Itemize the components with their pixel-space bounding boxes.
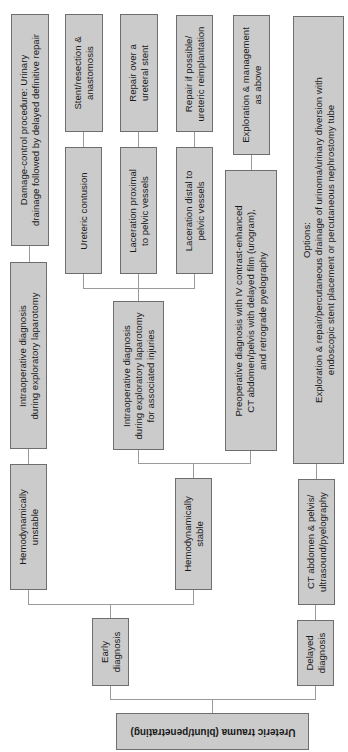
node-label: Preoperative diagnosis with IV contrast-…	[233, 205, 269, 416]
node-early-diagnosis: Early diagnosis	[92, 618, 129, 686]
node-label: Damage-control procedure: Urinary draina…	[18, 34, 42, 226]
connector	[251, 155, 252, 170]
connector	[28, 604, 194, 605]
connector	[193, 463, 194, 478]
connector	[110, 604, 111, 618]
node-laceration-proximal: Laceration proximal to pelvic vessels	[120, 147, 157, 274]
node-intraop-unstable: Intraoperative diagnosis during explorat…	[10, 262, 47, 449]
node-damage-control: Damage-control procedure: Urinary draina…	[11, 14, 49, 246]
connector	[138, 463, 251, 464]
node-label: Laceration proximal to pelvic vessels	[127, 169, 151, 253]
node-label: Repair over a ureteral stent	[127, 44, 151, 102]
connector	[315, 605, 316, 620]
node-label: Stent/resection & anastomosis	[72, 36, 96, 109]
node-repair-stent: Repair over a ureteral stent	[120, 14, 158, 132]
connector	[138, 288, 139, 301]
node-root: Ureteric trauma (blunt/penetrating)	[116, 713, 309, 750]
node-exploration: Exploration & management as above	[233, 15, 270, 155]
node-options: Options: Exploration & repair/percutaneo…	[293, 16, 344, 464]
node-hemodynamically-stable: Hemodynamically stable	[175, 478, 212, 590]
node-preop-diagnosis: Preoperative diagnosis with IV contrast-…	[225, 170, 277, 451]
connector	[110, 699, 316, 700]
node-label: Repair if possible/ ureteric reimplantat…	[183, 26, 207, 121]
node-intraop-stable: Intraoperative diagnosis during explorat…	[113, 301, 164, 450]
node-label: Early diagnosis	[99, 632, 123, 673]
node-label: Laceration distal to pelvic vessels	[183, 170, 207, 251]
connector	[83, 288, 195, 289]
node-ct-delayed: CT abdomen & pelvis/ ultrasound/pyelogra…	[298, 479, 335, 605]
connector	[83, 132, 84, 147]
node-ureteric-contusion: Ureteric contusion	[65, 147, 102, 274]
node-laceration-distal: Laceration distal to pelvic vessels	[176, 147, 213, 274]
connector	[138, 132, 139, 147]
node-label: Intraoperative diagnosis during explorat…	[17, 292, 41, 419]
node-label: Options: Exploration & repair/percutaneo…	[301, 77, 337, 403]
connector	[28, 449, 29, 464]
connector	[83, 274, 84, 288]
connector	[138, 450, 139, 463]
connector	[193, 590, 194, 604]
connector	[29, 246, 30, 262]
connector	[28, 590, 29, 604]
node-repair-reimplant: Repair if possible/ ureteric reimplantat…	[176, 15, 213, 132]
connector	[194, 132, 195, 147]
connector	[138, 274, 139, 288]
connector	[194, 274, 195, 288]
connector	[315, 686, 316, 699]
node-delayed-diagnosis: Delayed diagnosis	[297, 620, 334, 686]
node-label: Intraoperative diagnosis during explorat…	[121, 312, 157, 439]
node-stent-resection: Stent/resection & anastomosis	[65, 14, 103, 132]
node-label: Exploration & management as above	[240, 27, 264, 143]
connector	[212, 699, 213, 713]
node-label: Ureteric trauma (blunt/penetrating)	[130, 726, 295, 738]
node-hemodynamically-unstable: Hemodynamically unstable	[10, 464, 47, 590]
node-label: Hemodynamically unstable	[17, 489, 41, 565]
node-label: CT abdomen & pelvis/ ultrasound/pyelogra…	[305, 492, 329, 592]
connector	[250, 451, 251, 463]
connector	[316, 464, 317, 479]
connector	[110, 686, 111, 699]
node-label: Ureteric contusion	[78, 172, 90, 249]
node-label: Hemodynamically stable	[182, 496, 206, 572]
node-label: Delayed diagnosis	[304, 633, 328, 674]
